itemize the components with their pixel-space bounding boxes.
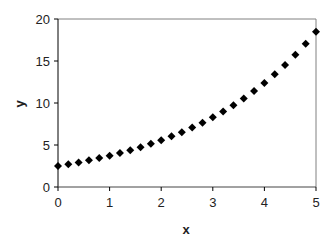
data-point-diamond: [188, 124, 196, 132]
data-point-diamond: [157, 136, 165, 144]
y-tick-label: 20: [36, 12, 50, 27]
data-point-diamond: [312, 28, 320, 36]
data-point-diamond: [137, 143, 145, 151]
x-tick-label: 4: [261, 195, 268, 210]
data-point-diamond: [302, 40, 310, 48]
data-point-diamond: [271, 70, 279, 78]
x-tick-label: 5: [312, 195, 319, 210]
data-point-diamond: [54, 162, 62, 170]
data-point-diamond: [106, 152, 114, 160]
scatter-chart: 05101520 012345 x y: [0, 0, 335, 247]
data-point-diamond: [75, 158, 83, 166]
x-axis-title: x: [182, 222, 190, 237]
data-series: [54, 28, 320, 170]
data-point-diamond: [64, 160, 72, 168]
y-axis-title: y: [12, 100, 27, 108]
y-tick-label: 0: [43, 180, 50, 195]
x-tick-label: 1: [106, 195, 113, 210]
data-point-diamond: [229, 101, 237, 109]
x-axis: 012345: [54, 187, 319, 210]
data-point-diamond: [209, 113, 217, 121]
y-tick-label: 5: [43, 138, 50, 153]
x-tick-label: 2: [158, 195, 165, 210]
y-tick-label: 15: [36, 54, 50, 69]
data-point-diamond: [281, 61, 289, 69]
plot-area: [58, 19, 316, 187]
data-point-diamond: [178, 128, 186, 136]
data-point-diamond: [291, 51, 299, 59]
data-point-diamond: [126, 146, 134, 154]
data-point-diamond: [116, 149, 124, 157]
data-point-diamond: [260, 79, 268, 87]
y-tick-label: 10: [36, 96, 50, 111]
data-point-diamond: [219, 107, 227, 115]
y-axis: 05101520: [36, 12, 58, 195]
data-point-diamond: [250, 87, 258, 95]
x-tick-label: 0: [54, 195, 61, 210]
data-point-diamond: [168, 132, 176, 140]
data-point-diamond: [240, 94, 248, 102]
data-point-diamond: [147, 140, 155, 148]
data-point-diamond: [95, 154, 103, 162]
data-point-diamond: [198, 119, 206, 127]
data-point-diamond: [85, 156, 93, 164]
x-tick-label: 3: [209, 195, 216, 210]
